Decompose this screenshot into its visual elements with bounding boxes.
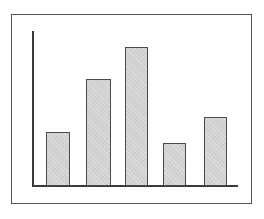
bar-4 [163, 143, 186, 186]
figure-root [0, 0, 264, 219]
y-axis-line [32, 31, 34, 186]
bar-1 [46, 132, 70, 186]
bar-5 [204, 117, 227, 186]
plot-area [12, 15, 253, 205]
chart-frame [11, 14, 252, 204]
bar-2 [86, 79, 111, 186]
bar-3 [125, 47, 148, 186]
